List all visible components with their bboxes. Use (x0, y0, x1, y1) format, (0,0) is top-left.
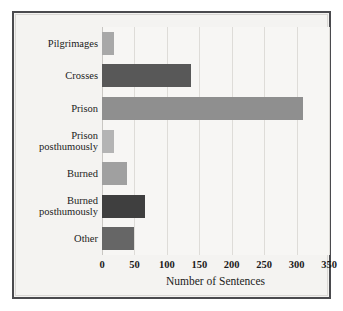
x-tick-label: 250 (249, 259, 279, 271)
gridline (297, 27, 298, 255)
category-label: Burned (14, 168, 98, 180)
category-label-line: Other (14, 233, 98, 245)
category-label: Crosses (14, 70, 98, 82)
gridline (134, 27, 135, 255)
gridline (199, 27, 200, 255)
plot-area (102, 27, 329, 255)
bar (102, 97, 303, 120)
category-label-line: Burned (14, 195, 98, 207)
category-label: Pilgrimages (14, 38, 98, 50)
category-label-line: posthumously (14, 141, 98, 153)
category-label: Other (14, 233, 98, 245)
gridline (232, 27, 233, 255)
category-label-line: Prison (14, 130, 98, 142)
bar (102, 162, 127, 185)
category-label-line: Burned (14, 168, 98, 180)
chart-figure: PilgrimagesCrossesPrisonPrisonposthumous… (0, 0, 343, 311)
x-tick-label: 0 (87, 259, 117, 271)
bar (102, 195, 145, 218)
bar (102, 32, 114, 55)
category-label-line: Crosses (14, 70, 98, 82)
category-label: Burnedposthumously (14, 195, 98, 218)
bar (102, 64, 191, 87)
category-label: Prisonposthumously (14, 130, 98, 153)
bar (102, 130, 114, 153)
x-tick-label: 350 (314, 259, 343, 271)
category-axis-labels: PilgrimagesCrossesPrisonPrisonposthumous… (14, 27, 98, 255)
category-label-line: posthumously (14, 206, 98, 218)
x-tick-label: 300 (282, 259, 312, 271)
x-axis-title: Number of Sentences (102, 275, 329, 287)
x-tick-label: 50 (119, 259, 149, 271)
category-label: Prison (14, 103, 98, 115)
x-tick-label: 200 (217, 259, 247, 271)
gridline (264, 27, 265, 255)
gridline (329, 27, 330, 255)
category-label-line: Prison (14, 103, 98, 115)
category-label-line: Pilgrimages (14, 38, 98, 50)
x-tick-label: 100 (152, 259, 182, 271)
x-axis-ticks: 050100150200250300350 (102, 259, 329, 273)
bar (102, 227, 134, 250)
gridline (167, 27, 168, 255)
x-tick-label: 150 (184, 259, 214, 271)
